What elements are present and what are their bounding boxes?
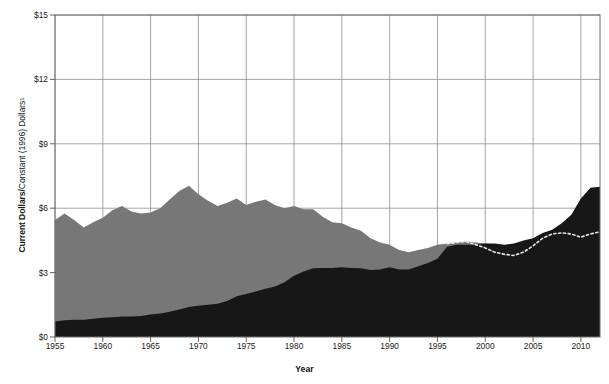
plot-area	[0, 0, 609, 384]
chart-container: Current Dollars / Constant (1996) Dollar…	[0, 0, 609, 384]
